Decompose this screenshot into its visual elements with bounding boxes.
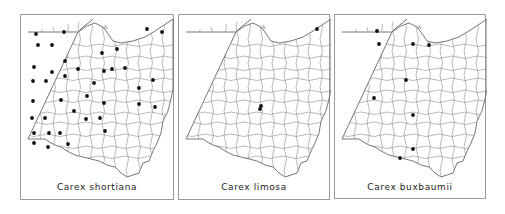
occurrence-dot	[372, 96, 376, 100]
occurrence-dot	[160, 30, 164, 34]
occurrence-dot	[315, 27, 319, 31]
occurrence-dot	[427, 43, 431, 47]
occurrence-dot	[32, 65, 36, 69]
occurrence-dot	[32, 141, 36, 145]
occurrence-dot	[34, 32, 38, 36]
occurrence-dot	[32, 131, 36, 135]
occurrence-dot	[63, 59, 67, 63]
occurrence-dot	[377, 42, 381, 46]
occurrence-dot	[411, 42, 415, 46]
occurrence-dot	[46, 145, 50, 149]
map-panel-carex-limosa: ⁂ Carex limosa	[178, 14, 330, 200]
occurrence-dot	[375, 29, 379, 33]
occurrence-dot	[63, 74, 67, 78]
occurrence-dot	[66, 142, 70, 146]
occurrence-dot	[72, 109, 76, 113]
map-panel-carex-buxbaumii: ⁂ Carex buxbaumii	[334, 14, 486, 199]
occurrence-dot	[153, 105, 157, 109]
occurrence-dot	[137, 102, 141, 106]
occurrence-dot	[50, 70, 54, 74]
occurrence-dot	[30, 116, 34, 120]
occurrence-dot	[145, 27, 149, 31]
occurrence-dot	[44, 79, 48, 83]
occurrence-dot	[92, 81, 96, 85]
occurrence-dot	[258, 107, 262, 111]
occurrence-dot	[137, 86, 141, 90]
occurrence-dot	[102, 101, 106, 105]
occurrence-dot	[103, 129, 107, 133]
occurrence-dot	[85, 94, 89, 98]
occurrence-dot	[50, 43, 54, 47]
occurrence-dot	[36, 43, 40, 47]
species-label: Carex buxbaumii	[335, 182, 485, 192]
occurrence-dot	[151, 78, 155, 82]
map-panel-carex-shortiana: ⁂ Carex shortiana	[20, 14, 174, 200]
ohio-county-map: ⁂	[335, 15, 487, 200]
occurrence-dot	[100, 51, 104, 55]
occurrence-dot	[31, 79, 35, 83]
occurrence-dot	[411, 113, 415, 117]
bass-islands-mark: ⁂	[261, 24, 266, 30]
occurrence-dot	[76, 67, 80, 71]
bass-islands-mark: ⁂	[103, 24, 108, 30]
occurrence-dot	[47, 131, 51, 135]
occurrence-dot	[398, 156, 402, 160]
species-label: Carex shortiana	[21, 182, 173, 192]
occurrence-dot	[43, 116, 47, 120]
occurrence-dot	[84, 117, 88, 121]
occurrence-dot	[62, 30, 66, 34]
occurrence-dot	[411, 147, 415, 151]
occurrence-dot	[110, 67, 114, 71]
species-label: Carex limosa	[179, 182, 329, 192]
occurrence-dot	[58, 131, 62, 135]
bass-islands-mark: ⁂	[417, 24, 422, 30]
county-boundaries	[21, 15, 175, 183]
occurrence-dot	[102, 69, 106, 73]
ohio-county-map: ⁂	[21, 15, 175, 201]
ohio-county-map: ⁂	[179, 15, 331, 201]
occurrence-dot	[59, 98, 63, 102]
occurrence-dot	[404, 78, 408, 82]
occurrence-dot	[115, 47, 119, 51]
occurrence-dot	[31, 99, 35, 103]
occurrence-dot	[123, 66, 127, 70]
occurrence-dot	[98, 116, 102, 120]
